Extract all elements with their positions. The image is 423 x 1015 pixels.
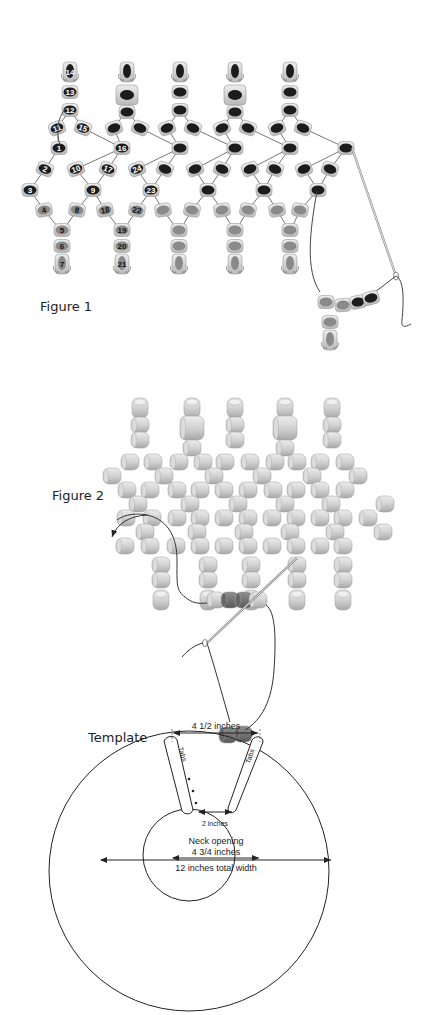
bead (294, 160, 313, 178)
bead (326, 524, 344, 540)
bead (282, 224, 298, 237)
tab-gap-label: 2 inches (202, 820, 229, 827)
bead (240, 160, 259, 178)
bead-number: 6 (60, 242, 65, 251)
end-bead: 7 (53, 254, 70, 274)
bead (264, 482, 282, 498)
bead (256, 184, 272, 197)
bead (265, 160, 284, 178)
thread (310, 191, 320, 292)
bead (323, 432, 341, 448)
bead (180, 416, 204, 440)
bead (121, 454, 139, 470)
bead-number: 19 (118, 226, 127, 235)
bead-number: 16 (118, 144, 127, 153)
bead: 16 (114, 142, 130, 155)
bead: 11 (47, 119, 66, 137)
bead (172, 104, 188, 117)
bead (276, 496, 294, 512)
figure-2-caption: Figure 2 (52, 488, 104, 503)
bead: 24 (127, 160, 146, 178)
bead (322, 316, 338, 329)
bead (131, 432, 149, 448)
bead: 3 (22, 184, 38, 197)
figure-1-caption: Figure 1 (40, 299, 92, 314)
bead (226, 432, 244, 448)
end-bead (227, 398, 243, 418)
bead: 15 (73, 119, 92, 137)
end-bead (324, 398, 340, 418)
bead (183, 119, 202, 137)
bead (212, 119, 231, 137)
bead: 22 (128, 202, 146, 218)
bead (242, 557, 260, 573)
bead (191, 538, 209, 554)
bead-number: 1 (57, 144, 62, 153)
bead-number: 21 (118, 260, 127, 269)
bead (338, 142, 354, 155)
bead: 20 (114, 240, 130, 253)
end-bead (226, 62, 243, 82)
bead: 13 (62, 86, 78, 99)
bead (172, 142, 188, 155)
end-bead (184, 398, 200, 418)
bead (241, 454, 259, 470)
bead (152, 557, 170, 573)
bead (282, 142, 298, 155)
bead (215, 482, 233, 498)
bead (141, 538, 159, 554)
end-bead (335, 590, 351, 610)
bead (323, 417, 341, 433)
bead (144, 454, 162, 470)
bead (336, 454, 354, 470)
bead (205, 468, 223, 484)
bead: 6 (54, 240, 70, 253)
bead: 5 (54, 224, 70, 237)
bead (318, 296, 334, 309)
end-bead (281, 62, 298, 82)
bead (170, 454, 188, 470)
bead-number: 9 (91, 186, 96, 195)
bead (116, 538, 134, 554)
bead (374, 524, 392, 540)
bead: 1 (51, 142, 67, 155)
bead (191, 482, 209, 498)
bead (282, 104, 298, 117)
bead: 9 (85, 184, 101, 197)
end-bead (321, 330, 338, 350)
bead (130, 119, 149, 137)
bead (291, 202, 309, 218)
end-bead (281, 254, 298, 274)
end-bead (132, 398, 148, 418)
bead (311, 510, 329, 526)
thread (375, 276, 411, 326)
bead (311, 482, 329, 498)
figure-2: Figure 2 (52, 398, 394, 743)
bead: 2 (35, 160, 54, 178)
bead-number: 13 (66, 88, 75, 97)
bead (171, 240, 187, 253)
bead (103, 468, 121, 484)
bead-number: 5 (60, 226, 65, 235)
diagram-canvas: 141312111511621017243923481822567192021 … (0, 0, 423, 1015)
bead (154, 202, 172, 218)
bead (143, 510, 161, 526)
bead (320, 160, 339, 178)
bead (287, 510, 305, 526)
bead (226, 417, 244, 433)
neck-opening-label: Neck opening (188, 836, 243, 846)
bead (239, 482, 257, 498)
bead (183, 440, 201, 456)
bead (334, 298, 351, 312)
bead (311, 454, 329, 470)
bead (215, 538, 233, 554)
bead (334, 572, 352, 588)
bead (188, 524, 206, 540)
bead (239, 510, 257, 526)
bead (104, 119, 123, 137)
bead (199, 557, 217, 573)
end-bead (153, 590, 169, 610)
bead-number: 23 (147, 186, 156, 195)
bead (224, 85, 246, 105)
bead (311, 538, 329, 554)
